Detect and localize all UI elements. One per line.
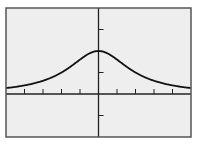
graph-plot <box>0 0 199 144</box>
